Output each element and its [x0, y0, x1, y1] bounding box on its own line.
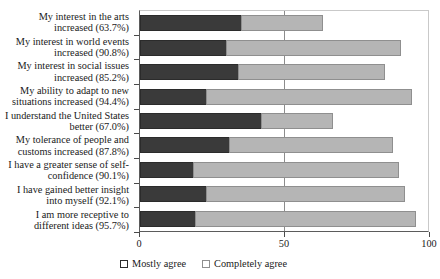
bar-row: [140, 84, 428, 108]
stacked-bar-chart: My interest in the arts increased (63.7%…: [0, 0, 440, 279]
bar-row: [140, 207, 428, 231]
x-axis-tick: [429, 232, 430, 237]
bar-segment-mostly-agree: [140, 64, 238, 80]
plot-area: [139, 10, 429, 232]
category-label: I understand the United States better (6…: [0, 109, 133, 134]
bar-segment-completely-agree: [226, 40, 401, 56]
bar-segment-mostly-agree: [140, 113, 261, 129]
stacked-bar: [140, 211, 416, 227]
x-axis-tick-labels: 050100: [139, 238, 429, 252]
legend-swatch-icon: [120, 260, 128, 268]
stacked-bar: [140, 137, 393, 153]
chart-legend: Mostly agree Completely agree: [120, 258, 287, 269]
legend-label: Mostly agree: [132, 258, 186, 269]
legend-swatch-icon: [202, 260, 210, 268]
bar-segment-mostly-agree: [140, 162, 193, 178]
stacked-bar: [140, 113, 333, 129]
bar-segment-completely-agree: [206, 186, 405, 202]
bar-rows: [140, 11, 428, 231]
stacked-bar: [140, 89, 412, 105]
x-axis-tick: [284, 232, 285, 237]
legend-item-mostly-agree: Mostly agree: [120, 258, 186, 269]
x-axis-tick: [139, 232, 140, 237]
stacked-bar: [140, 15, 323, 31]
bar-row: [140, 60, 428, 84]
category-label: My interest in the arts increased (63.7%…: [0, 10, 133, 35]
bar-segment-completely-agree: [238, 64, 385, 80]
bar-row: [140, 158, 428, 182]
category-label: My tolerance of people and customs incre…: [0, 133, 133, 158]
bar-segment-completely-agree: [193, 162, 399, 178]
bar-row: [140, 133, 428, 157]
legend-label: Completely agree: [214, 258, 287, 269]
x-axis-tick-label: 50: [279, 238, 289, 249]
bar-segment-completely-agree: [241, 15, 324, 31]
category-label: My ability to adapt to new situations in…: [0, 84, 133, 109]
bar-segment-completely-agree: [261, 113, 333, 129]
x-axis-tick-label: 0: [136, 238, 141, 249]
category-label: I have a greater sense of self-confidenc…: [0, 158, 133, 183]
bar-row: [140, 182, 428, 206]
bar-segment-mostly-agree: [140, 15, 241, 31]
stacked-bar: [140, 40, 402, 56]
category-label: My interest in world events increased (9…: [0, 35, 133, 60]
x-axis-tick-label: 100: [421, 238, 436, 249]
category-label: I have gained better insight into myself…: [0, 183, 133, 208]
bar-segment-completely-agree: [229, 137, 393, 153]
y-axis-category-labels: My interest in the arts increased (63.7%…: [0, 10, 133, 232]
bar-segment-mostly-agree: [140, 89, 206, 105]
bar-segment-mostly-agree: [140, 40, 226, 56]
stacked-bar: [140, 186, 405, 202]
stacked-bar: [140, 162, 399, 178]
stacked-bar: [140, 64, 385, 80]
category-label: I am more receptive to different ideas (…: [0, 207, 133, 232]
bar-segment-completely-agree: [195, 211, 416, 227]
bar-row: [140, 35, 428, 59]
bar-segment-completely-agree: [206, 89, 412, 105]
bar-segment-mostly-agree: [140, 211, 195, 227]
bar-segment-mostly-agree: [140, 186, 206, 202]
bar-segment-mostly-agree: [140, 137, 229, 153]
bar-row: [140, 11, 428, 35]
legend-item-completely-agree: Completely agree: [202, 258, 287, 269]
category-label: My interest in social issues increased (…: [0, 59, 133, 84]
bar-row: [140, 109, 428, 133]
